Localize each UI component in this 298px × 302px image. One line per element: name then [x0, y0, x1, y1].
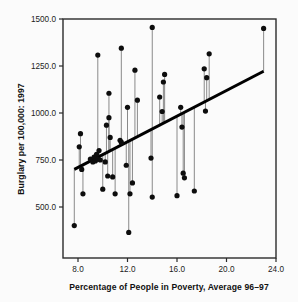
data-point — [135, 98, 140, 103]
data-point — [98, 157, 103, 162]
y-axis-title: Burglary per 100,000: 1997 — [16, 83, 26, 195]
data-point — [113, 191, 118, 196]
data-point — [174, 193, 179, 198]
data-point — [203, 109, 208, 114]
data-point — [207, 51, 212, 56]
data-point — [160, 109, 165, 114]
data-point — [126, 230, 131, 235]
data-point — [182, 175, 187, 180]
y-tick-label: 1500.0 — [31, 15, 56, 24]
data-point — [119, 46, 124, 51]
data-point — [178, 105, 183, 110]
data-point — [80, 191, 85, 196]
data-point — [162, 72, 167, 77]
data-point — [72, 223, 77, 228]
data-point — [106, 115, 111, 120]
data-point — [100, 187, 105, 192]
data-point — [157, 94, 162, 99]
data-point — [119, 140, 124, 145]
data-point — [202, 66, 207, 71]
data-point — [204, 75, 209, 80]
data-point — [96, 148, 101, 153]
x-tick-label: 16.0 — [169, 265, 185, 274]
data-point — [78, 131, 83, 136]
y-tick-label: 1000.0 — [31, 109, 56, 118]
data-point — [104, 123, 109, 128]
data-point — [150, 25, 155, 30]
data-point — [77, 144, 82, 149]
x-axis-title: Percentage of People in Poverty, Average… — [69, 282, 269, 292]
data-point — [127, 191, 132, 196]
data-point — [106, 91, 111, 96]
x-tick-label: 24.0 — [268, 265, 284, 274]
data-point — [261, 26, 266, 31]
x-tick-label: 20.0 — [219, 265, 235, 274]
y-tick-label: 500.0 — [36, 203, 57, 212]
data-point — [148, 156, 153, 161]
data-point — [95, 52, 100, 57]
scatter-plot-figure: 8.012.016.020.024.0 500.0750.01000.01250… — [0, 0, 298, 302]
x-tick-label: 12.0 — [120, 265, 136, 274]
data-point — [124, 163, 129, 168]
data-point — [132, 68, 137, 73]
y-tick-label: 1250.0 — [31, 62, 56, 71]
data-point — [161, 79, 166, 84]
data-point — [110, 174, 115, 179]
x-tick-label: 8.0 — [72, 265, 84, 274]
data-point — [103, 159, 108, 164]
data-point — [179, 125, 184, 130]
data-point — [150, 194, 155, 199]
data-point — [108, 135, 113, 140]
data-point — [125, 105, 130, 110]
chart-canvas: 8.012.016.020.024.0 500.0750.01000.01250… — [0, 0, 298, 302]
data-point — [130, 180, 135, 185]
data-point — [79, 167, 84, 172]
data-point — [192, 188, 197, 193]
data-point — [181, 171, 186, 176]
data-point — [105, 173, 110, 178]
y-tick-label: 750.0 — [36, 156, 57, 165]
plot-background — [0, 0, 298, 302]
